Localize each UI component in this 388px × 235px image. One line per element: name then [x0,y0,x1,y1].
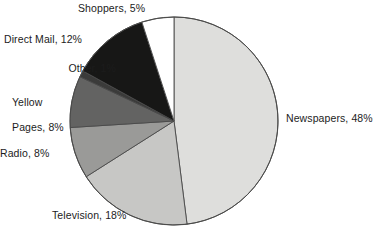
slice-label-yellow-pages-line1: Yellow [12,96,43,108]
pie-slice-newspapers [174,17,278,224]
pie-chart: Shoppers, 5% Direct Mail, 12% Other, 1% … [0,0,388,235]
slice-label-radio: Radio, 8% [0,147,78,160]
pie-slice-group [70,17,278,225]
slice-label-television: Television, 18% [52,209,162,222]
slice-label-newspapers: Newspapers, 48% [286,112,388,125]
slice-label-shoppers: Shoppers, 5% [78,2,188,15]
slice-label-yellow-pages-line2: Pages, 8% [12,121,64,133]
slice-label-direct-mail: Direct Mail, 12% [4,33,116,46]
slice-label-yellow-pages: Yellow Pages, 8% [0,83,72,146]
slice-label-other: Other, 1% [4,62,116,75]
